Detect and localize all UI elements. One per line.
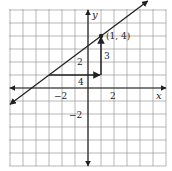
x-tick-neg2: −2 — [54, 91, 67, 101]
rise-label: 3 — [104, 51, 110, 61]
point-1-4 — [99, 34, 103, 38]
x-tick-2: 2 — [110, 91, 116, 101]
x-axis-label: x — [156, 90, 162, 101]
y-tick-2: 2 — [77, 57, 83, 67]
point-label: (1, 4) — [106, 31, 130, 41]
run-label: 4 — [78, 77, 84, 87]
y-axis-label: y — [91, 9, 98, 20]
y-tick-neg2: −2 — [69, 110, 82, 120]
coordinate-graph: y x −2 2 2 −2 (1, 4) 4 3 — [0, 0, 172, 171]
